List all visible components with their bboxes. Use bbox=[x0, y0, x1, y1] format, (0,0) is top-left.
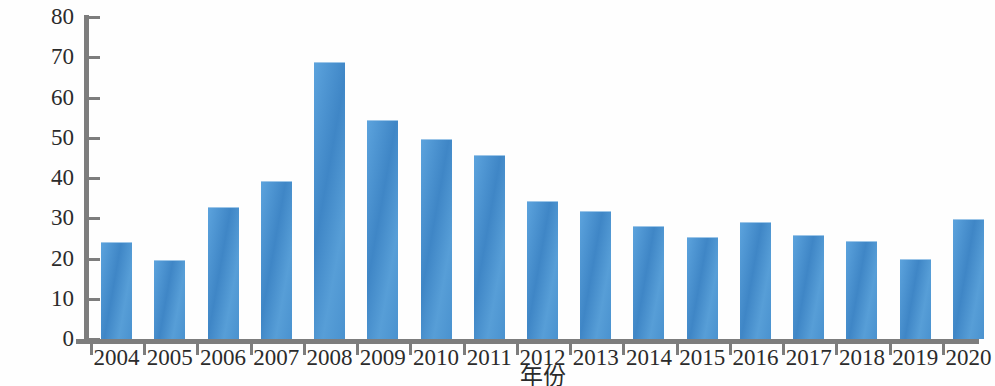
y-tick-mark bbox=[89, 258, 100, 261]
x-tick-label: 2013 bbox=[573, 345, 619, 371]
y-tick-mark bbox=[89, 97, 100, 100]
x-tick-label: 2006 bbox=[200, 345, 246, 371]
y-tick-mark bbox=[89, 137, 100, 140]
bars-layer bbox=[84, 17, 989, 339]
y-tick-label: 10 bbox=[51, 286, 74, 312]
x-tick-label: 2011 bbox=[467, 345, 512, 371]
y-tick-label: 40 bbox=[51, 165, 74, 191]
bar bbox=[261, 181, 292, 339]
x-tick-label: 2008 bbox=[307, 345, 353, 371]
bar-chart: 金额/百万美元 01020304050607080 20042005200620… bbox=[0, 0, 995, 386]
y-tick-mark bbox=[89, 298, 100, 301]
bar bbox=[527, 201, 558, 339]
x-axis-title: 年份 bbox=[520, 368, 566, 386]
y-tick-label: 50 bbox=[51, 125, 74, 151]
y-tick-label: 0 bbox=[63, 326, 75, 352]
y-tick-mark bbox=[89, 338, 100, 341]
bar bbox=[793, 235, 824, 339]
y-tick-label: 80 bbox=[51, 4, 74, 30]
bar bbox=[101, 242, 132, 339]
x-tick-label: 2005 bbox=[147, 345, 193, 371]
x-tick-label: 2018 bbox=[839, 345, 885, 371]
bar bbox=[687, 237, 718, 339]
x-tick-label: 2004 bbox=[94, 345, 140, 371]
y-tick-label: 60 bbox=[51, 85, 74, 111]
bar bbox=[474, 155, 505, 339]
x-tick-label: 2017 bbox=[786, 345, 832, 371]
y-axis-tick-labels: 01020304050607080 bbox=[34, 0, 78, 386]
x-tick-label: 2009 bbox=[360, 345, 406, 371]
x-tick-label: 2016 bbox=[732, 345, 778, 371]
bar bbox=[580, 211, 611, 339]
bar bbox=[900, 259, 931, 339]
y-tick-label: 70 bbox=[51, 44, 74, 70]
bar bbox=[633, 226, 664, 339]
x-tick-label: 2019 bbox=[892, 345, 938, 371]
plot-area bbox=[84, 17, 989, 339]
x-tick-label: 2015 bbox=[679, 345, 725, 371]
bar bbox=[846, 241, 877, 339]
bar bbox=[367, 120, 398, 339]
y-tick-mark bbox=[89, 56, 100, 59]
bar bbox=[421, 139, 452, 339]
y-tick-mark bbox=[89, 177, 100, 180]
x-axis-line bbox=[76, 339, 979, 344]
x-tick-label: 2020 bbox=[945, 345, 991, 371]
bar bbox=[314, 62, 345, 339]
bar bbox=[154, 260, 185, 339]
y-tick-mark bbox=[89, 16, 100, 19]
x-tick-label: 2014 bbox=[626, 345, 672, 371]
y-tick-label: 20 bbox=[51, 246, 74, 272]
x-tick-label: 2007 bbox=[253, 345, 299, 371]
x-tick-label: 2010 bbox=[413, 345, 459, 371]
bar bbox=[740, 222, 771, 339]
bar bbox=[208, 207, 239, 339]
bar bbox=[953, 219, 984, 339]
y-tick-mark bbox=[89, 217, 100, 220]
y-tick-label: 30 bbox=[51, 205, 74, 231]
